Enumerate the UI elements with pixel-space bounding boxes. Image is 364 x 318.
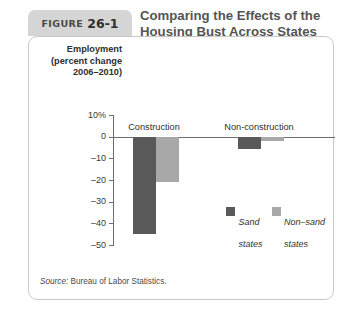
figure-title: Comparing the Effects of the Housing Bus… — [140, 8, 355, 39]
y-axis-tick — [109, 158, 114, 159]
bar-construction-sand-states — [133, 137, 156, 235]
bar-non-construction-sand-states — [238, 137, 261, 149]
y-axis-tick-label: –10 — [62, 154, 106, 163]
y-axis-title: Employment (percent change 2006–2010) — [14, 44, 122, 79]
source-prefix: Source: — [40, 277, 68, 286]
legend-item-sand-states: Sand states — [226, 206, 263, 250]
legend-swatch-non-sand-states — [272, 207, 281, 216]
y-axis-tick-label: –30 — [62, 197, 106, 206]
y-axis-tick-label: 10% — [62, 111, 106, 120]
y-axis-tick — [109, 245, 114, 246]
legend-label-sand-states: Sand states — [239, 206, 263, 250]
y-axis-tick — [109, 115, 114, 116]
y-axis-tick — [109, 223, 114, 224]
y-axis-tick-label: –50 — [62, 241, 106, 250]
bar-non-construction-non-sand-states — [261, 137, 284, 141]
y-axis-tick-labels: 10%0–10–20–30–40–50 — [58, 115, 106, 267]
y-axis-tick — [109, 137, 114, 138]
legend-label-non-sand-states: Non–sand states — [284, 206, 325, 250]
y-axis-tick-label: –40 — [62, 219, 106, 228]
category-label-construction: Construction — [128, 122, 180, 132]
y-axis-tick — [109, 202, 114, 203]
y-axis-title-line-1: Employment — [14, 44, 122, 56]
legend-swatch-sand-states — [226, 207, 235, 216]
y-axis-tick — [109, 180, 114, 181]
category-label-non-construction: Non-construction — [224, 122, 293, 132]
figure-tab-number: 26-1 — [87, 16, 118, 31]
figure-tab: FIGURE 26-1 — [28, 10, 132, 36]
legend-label-sand-states-line-2: states — [239, 239, 263, 249]
y-axis-tick-label: –20 — [62, 176, 106, 185]
legend-label-non-sand-states-line-2: states — [284, 239, 308, 249]
y-axis-tick-label: 0 — [62, 132, 106, 141]
bar-construction-non-sand-states — [156, 137, 179, 183]
source-note: Source: Bureau of Labor Statistics. — [40, 277, 167, 286]
y-axis-title-line-2: (percent change — [14, 56, 122, 68]
figure-tab-label: FIGURE — [41, 18, 83, 29]
source-text: Bureau of Labor Statistics. — [68, 277, 166, 286]
figure-26-1: FIGURE 26-1 Comparing the Effects of the… — [0, 0, 364, 318]
y-axis-title-line-3: 2006–2010) — [14, 67, 122, 79]
legend-label-sand-states-line-1: Sand — [239, 217, 260, 227]
figure-title-line-1: Comparing the Effects of the — [140, 8, 355, 24]
legend-label-non-sand-states-line-1: Non–sand — [284, 217, 325, 227]
chart-legend: Sand states Non–sand states — [226, 206, 325, 250]
legend-item-non-sand-states: Non–sand states — [272, 206, 326, 250]
